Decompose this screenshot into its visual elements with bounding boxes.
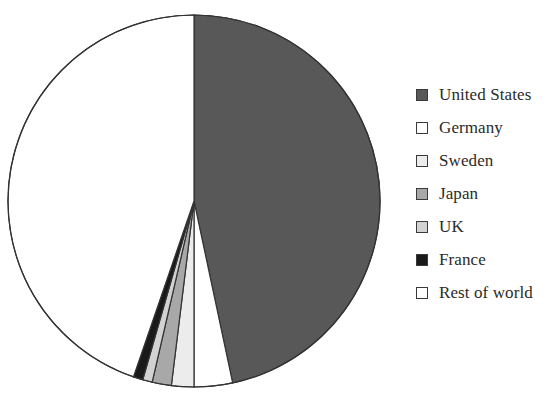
legend-label-uk: UK <box>439 218 464 235</box>
legend-item-france[interactable]: France <box>416 243 558 276</box>
legend-swatch-france <box>416 254 428 266</box>
pie-chart-plot-area <box>0 0 398 397</box>
legend-label-france: France <box>439 251 486 268</box>
chart-legend: United States Germany Sweden Japan UK Fr… <box>416 78 558 309</box>
pie-slice-group <box>8 15 380 387</box>
legend-item-germany[interactable]: Germany <box>416 111 558 144</box>
legend-item-rest-of-world[interactable]: Rest of world <box>416 276 558 309</box>
legend-swatch-rest-of-world <box>416 287 428 299</box>
legend-item-sweden[interactable]: Sweden <box>416 144 558 177</box>
pie-slice-united-states[interactable] <box>194 15 380 383</box>
legend-swatch-uk <box>416 221 428 233</box>
pie-chart-figure: United States Germany Sweden Japan UK Fr… <box>0 0 558 397</box>
legend-swatch-japan <box>416 188 428 200</box>
legend-item-uk[interactable]: UK <box>416 210 558 243</box>
legend-swatch-germany <box>416 122 428 134</box>
legend-swatch-united-states <box>416 89 428 101</box>
pie-chart-svg <box>0 0 398 397</box>
legend-item-united-states[interactable]: United States <box>416 78 558 111</box>
legend-label-rest-of-world: Rest of world <box>439 284 533 301</box>
legend-label-united-states: United States <box>439 86 531 103</box>
legend-label-germany: Germany <box>439 119 503 136</box>
legend-swatch-sweden <box>416 155 428 167</box>
legend-label-japan: Japan <box>439 185 478 202</box>
legend-item-japan[interactable]: Japan <box>416 177 558 210</box>
legend-label-sweden: Sweden <box>439 152 493 169</box>
